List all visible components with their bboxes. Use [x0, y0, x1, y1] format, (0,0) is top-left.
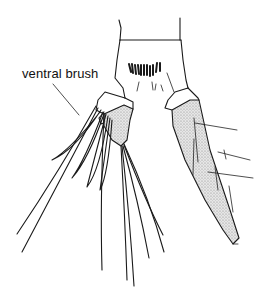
- anatomical-figure: ventral brush: [0, 0, 269, 305]
- ventral-brush: [17, 106, 164, 286]
- comb-scales: [129, 63, 160, 76]
- siphon: [165, 88, 253, 244]
- abdominal-segment: [115, 18, 188, 98]
- larva-drawing: [0, 0, 269, 305]
- label-leader-line: [53, 84, 79, 115]
- ventral-brush-label: ventral brush: [22, 66, 98, 81]
- anal-segment: [96, 92, 133, 146]
